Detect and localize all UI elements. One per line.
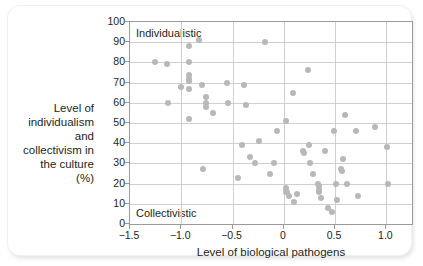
x-tick-mark: [283, 225, 284, 229]
gridline-horizontal: [130, 184, 412, 185]
y-tick-label: 40: [99, 137, 125, 147]
y-tick-label: 10: [99, 198, 125, 208]
x-tick-mark: [232, 225, 233, 229]
data-point: [294, 191, 300, 197]
data-point: [241, 82, 247, 88]
data-point: [283, 118, 289, 124]
x-tick-label: 1.0: [365, 229, 405, 241]
gridline-horizontal: [130, 103, 412, 104]
data-point: [186, 59, 192, 65]
x-tick-label: 0: [263, 229, 303, 241]
y-tick-label: 100: [99, 16, 125, 26]
data-point: [262, 39, 268, 45]
data-point: [334, 197, 340, 203]
annotation-collectivistic: Collectivistic: [136, 207, 197, 219]
data-point: [329, 209, 335, 215]
data-point: [165, 100, 171, 106]
y-tick-label: 20: [99, 178, 125, 188]
y-axis-title: Level of individualism and collectivism …: [20, 101, 94, 185]
gridline-horizontal: [130, 123, 412, 124]
gridline-vertical: [233, 22, 234, 224]
data-point: [164, 61, 170, 67]
x-tick-label: 0.5: [314, 229, 354, 241]
data-point: [203, 104, 209, 110]
data-point: [199, 82, 205, 88]
y-tick-label: 50: [99, 117, 125, 127]
data-point: [340, 156, 346, 162]
x-axis-tick-labels: −1.5−1.0−0.500.51.0: [129, 229, 413, 243]
data-point: [210, 110, 216, 116]
data-point: [384, 144, 390, 150]
x-tick-mark: [334, 225, 335, 229]
annotation-individualistic: Individualistic: [136, 27, 201, 39]
gridline-horizontal: [130, 42, 412, 43]
data-point: [203, 94, 209, 100]
gridline-horizontal: [130, 62, 412, 63]
data-point: [339, 168, 345, 174]
y-tick-label: 0: [99, 218, 125, 228]
data-point: [186, 116, 192, 122]
plot-area: Individualistic Collectivistic: [129, 21, 413, 225]
data-point: [305, 67, 311, 73]
data-point: [267, 171, 273, 177]
data-point: [290, 90, 296, 96]
y-tick-label: 90: [99, 36, 125, 46]
data-point: [307, 160, 313, 166]
data-point: [333, 181, 339, 187]
y-tick-label: 80: [99, 56, 125, 66]
x-tick-mark: [385, 225, 386, 229]
data-point: [342, 112, 348, 118]
data-point: [225, 100, 231, 106]
data-point: [353, 128, 359, 134]
data-point: [291, 199, 297, 205]
gridline-vertical: [181, 22, 182, 224]
data-point: [355, 193, 361, 199]
figure-card: Level of individualism and collectivism …: [8, 6, 411, 255]
gridline-horizontal: [130, 204, 412, 205]
data-point: [200, 166, 206, 172]
data-point: [224, 80, 230, 86]
data-point: [385, 181, 391, 187]
data-point: [178, 84, 184, 90]
data-point: [247, 154, 253, 160]
data-point: [318, 195, 324, 201]
data-point: [243, 102, 249, 108]
data-point: [301, 150, 307, 156]
data-point: [271, 160, 277, 166]
data-point: [322, 148, 328, 154]
x-tick-mark: [129, 225, 130, 229]
data-point: [186, 86, 192, 92]
y-axis-tick-labels: 0102030405060708090100: [97, 21, 125, 225]
data-point: [372, 124, 378, 130]
data-point: [239, 142, 245, 148]
data-point: [306, 142, 312, 148]
x-tick-label: −1.5: [109, 229, 149, 241]
x-tick-label: −0.5: [212, 229, 252, 241]
data-point: [331, 128, 337, 134]
data-point: [252, 160, 258, 166]
y-tick-label: 70: [99, 77, 125, 87]
y-tick-label: 60: [99, 97, 125, 107]
data-point: [196, 37, 202, 43]
gridline-horizontal: [130, 143, 412, 144]
data-point: [310, 171, 316, 177]
data-point: [274, 128, 280, 134]
data-point: [235, 175, 241, 181]
data-point: [316, 189, 322, 195]
gridline-vertical: [386, 22, 387, 224]
gridline-horizontal: [130, 83, 412, 84]
x-axis-title: Level of biological pathogens: [129, 246, 413, 258]
data-point: [286, 193, 292, 199]
x-tick-mark: [180, 225, 181, 229]
data-point: [152, 59, 158, 65]
data-point: [186, 43, 192, 49]
gridline-vertical: [335, 22, 336, 224]
y-tick-label: 30: [99, 157, 125, 167]
x-tick-label: −1.0: [160, 229, 200, 241]
data-point: [344, 181, 350, 187]
